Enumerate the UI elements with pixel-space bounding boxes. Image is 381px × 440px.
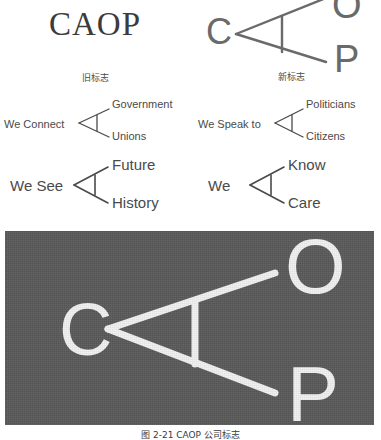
hero-letter-o: O (285, 231, 346, 310)
logo-comparison-row: CAOP 旧标志 C O P 新标志 (0, 0, 381, 95)
tagline-branch-label: Government (112, 98, 173, 110)
tagline-branch-label: Unions (112, 130, 147, 142)
new-logo-letter-c: C (206, 11, 232, 52)
tagline-main-label: We (208, 177, 230, 194)
new-logo-letter-p: P (334, 38, 359, 72)
tagline-we-speak-to: We Speak to Politicians Citizens (196, 95, 381, 151)
new-logo-caption: 新标志 (196, 70, 381, 83)
tagline-branch-label: Future (112, 156, 155, 173)
tagline-we: We Know Care (200, 153, 381, 217)
old-logo-wordmark: CAOP (0, 8, 190, 41)
hero-letter-p: P (287, 350, 339, 425)
tagline-we-see: We See Future History (2, 153, 188, 217)
new-logo-mark: C O P (198, 0, 378, 72)
tagline-branch-label: Citizens (306, 130, 346, 142)
tagline-branch-label: Politicians (306, 98, 356, 110)
figure-caption: 图 2-21 CAOP 公司标志 (0, 428, 381, 440)
old-logo-cell: CAOP 旧标志 (0, 0, 190, 95)
tagline-branch-label: Care (288, 194, 321, 211)
tagline-main-label: We See (10, 177, 63, 194)
tagline-branch-label: History (112, 194, 159, 211)
hero-letter-c: C (59, 288, 112, 371)
tagline-main-label: We Speak to (198, 118, 261, 130)
new-logo-letter-o: O (332, 0, 362, 26)
tagline-we-connect: We Connect Government Unions (2, 95, 188, 151)
tagline-branch-label: Know (288, 156, 326, 173)
new-logo-cell: C O P 新标志 (190, 0, 381, 95)
hero-logo-panel: C O P (5, 231, 374, 425)
tagline-grid: We Connect Government Unions We Speak to… (0, 95, 381, 228)
tagline-main-label: We Connect (4, 118, 64, 130)
old-logo-caption: 旧标志 (0, 71, 190, 84)
